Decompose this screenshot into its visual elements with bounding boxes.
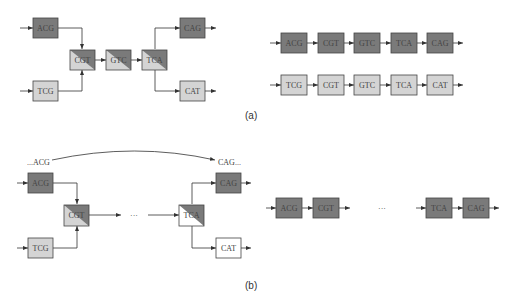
svg-text:TCA: TCA [147, 56, 163, 65]
diagram-canvas: ACG TCG CGT GTC TCA CAG [0, 0, 515, 297]
panel-a-chains: ACG CGT GTC TCA CAG TCG CGT GTC TCA CAT [270, 33, 463, 95]
node-tca: TCA [142, 50, 167, 70]
chain-light-label: TCG [286, 81, 302, 90]
chain-ellipsis: ··· [378, 204, 386, 213]
caption-b: (b) [245, 280, 257, 291]
node-cat: CAT [180, 81, 205, 101]
node-cgt: CGT [64, 205, 89, 226]
loop-end-label: CAG... [218, 158, 241, 167]
panel-a-graph: ACG TCG CGT GTC TCA CAG [20, 18, 216, 101]
svg-text:CGT: CGT [75, 56, 91, 65]
chain-light-label: CGT [323, 81, 339, 90]
node-tcg: TCG [28, 238, 53, 258]
chain-label: ACG [281, 204, 298, 213]
panel-b-chain: ACG CGT ··· TCA CAG [266, 198, 499, 218]
svg-text:CAG: CAG [184, 24, 201, 33]
node-acg: ACG [33, 18, 58, 38]
chain-light-label: CAT [432, 81, 447, 90]
node-acg: ACG [28, 173, 53, 193]
node-tcg: TCG [33, 81, 58, 101]
chain-label: TCA [431, 204, 447, 213]
node-gtc: GTC [106, 50, 131, 70]
chain-dark-label: GTC [359, 39, 375, 48]
svg-text:TCA: TCA [184, 211, 200, 220]
svg-text:TCG: TCG [38, 87, 54, 96]
node-cag: CAG [180, 18, 205, 38]
svg-text:CAT: CAT [185, 87, 200, 96]
svg-text:CAT: CAT [221, 244, 236, 253]
panel-b-graph: ...ACG CAG... ··· ACG TCG CGT [17, 151, 251, 258]
chain-light-label: TCA [396, 81, 412, 90]
chain-dark-label: CGT [323, 39, 339, 48]
svg-text:GTC: GTC [111, 56, 127, 65]
svg-text:CGT: CGT [69, 211, 85, 220]
chain-dark-label: CAG [432, 39, 449, 48]
loop-start-label: ...ACG [27, 158, 50, 167]
node-tca: TCA [179, 205, 204, 226]
chain-label: CAG [468, 204, 485, 213]
chain-label: CGT [318, 204, 334, 213]
chain-dark-label: TCA [396, 39, 412, 48]
chain-light-label: GTC [359, 81, 375, 90]
node-cgt: CGT [70, 50, 95, 70]
loop-arc [52, 151, 215, 160]
ellipsis: ··· [130, 211, 138, 220]
svg-text:ACG: ACG [32, 179, 49, 188]
svg-text:TCG: TCG [33, 244, 49, 253]
caption-a: (a) [245, 110, 257, 121]
node-cag: CAG [216, 173, 241, 193]
node-cat: CAT [216, 238, 241, 258]
svg-text:ACG: ACG [37, 24, 54, 33]
chain-dark-label: ACG [286, 39, 303, 48]
svg-text:CAG: CAG [220, 179, 237, 188]
